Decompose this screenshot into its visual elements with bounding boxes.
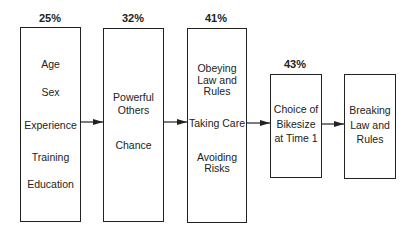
label-breaking-line3: Rules <box>344 133 396 145</box>
label-education: Education <box>20 178 81 190</box>
box4-percent: 43% <box>265 58 325 70</box>
label-powerful-line1: Powerful <box>103 91 164 103</box>
label-obeying-line3: Rules <box>187 85 247 97</box>
label-obeying-line1: Obeying <box>187 62 247 74</box>
box3-percent: 41% <box>186 12 246 24</box>
label-training: Training <box>20 151 81 163</box>
label-experience: Experience <box>20 119 81 131</box>
label-avoiding-line2: Risks <box>187 162 247 174</box>
label-taking-care: Taking Care <box>187 117 247 129</box>
label-sex: Sex <box>20 86 81 98</box>
label-choice-line1: Choice of <box>270 103 322 115</box>
box1-percent: 25% <box>20 12 80 24</box>
label-breaking-line1: Breaking <box>344 104 396 116</box>
label-choice-line2: Bikesize <box>270 118 322 130</box>
label-breaking-line2: Law and <box>344 119 396 131</box>
box2-percent: 32% <box>103 12 163 24</box>
label-chance: Chance <box>103 139 164 151</box>
box-locus-of-control <box>103 28 164 222</box>
label-powerful-line2: Others <box>103 104 164 116</box>
label-age: Age <box>20 58 81 70</box>
label-choice-line3: at Time 1 <box>270 132 322 144</box>
